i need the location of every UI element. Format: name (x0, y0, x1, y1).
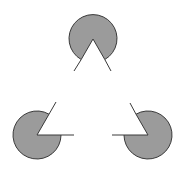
kanizsa-triangle-figure (0, 0, 186, 172)
